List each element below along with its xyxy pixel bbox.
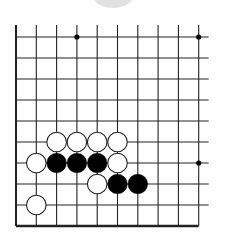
white-stone[interactable] <box>108 132 128 152</box>
stones-layer[interactable] <box>27 132 148 215</box>
black-stone[interactable] <box>128 174 148 194</box>
white-stone[interactable] <box>27 195 47 215</box>
star-point <box>74 34 79 39</box>
white-stone[interactable] <box>27 153 47 173</box>
white-stone[interactable] <box>47 132 67 152</box>
white-stone[interactable] <box>108 153 128 173</box>
star-point <box>196 34 201 39</box>
white-stone[interactable] <box>87 174 107 194</box>
white-stone[interactable] <box>87 132 107 152</box>
go-board[interactable] <box>0 0 226 245</box>
star-point <box>196 160 201 165</box>
white-stone[interactable] <box>67 132 87 152</box>
board-grid <box>16 25 209 226</box>
black-stone[interactable] <box>67 153 87 173</box>
black-stone[interactable] <box>87 153 107 173</box>
black-stone[interactable] <box>108 174 128 194</box>
black-stone[interactable] <box>47 153 67 173</box>
